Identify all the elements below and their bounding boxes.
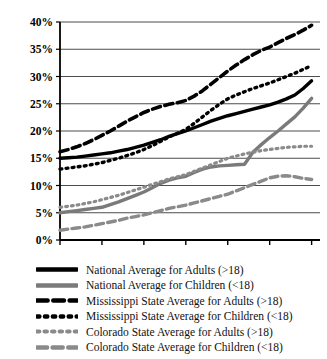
y-axis-tick-label: 40% (30, 16, 53, 28)
legend-item-colorado-adults[interactable]: Colorado State Average for Adults (>18) (0, 324, 327, 340)
y-axis-tick-label: 10% (30, 180, 53, 192)
legend-swatch-national-adults (36, 262, 78, 277)
legend-swatch-national-children (36, 278, 78, 293)
series-line-national-adults (60, 81, 312, 158)
legend-item-mississippi-adults[interactable]: Mississippi State Average for Adults (>1… (0, 293, 327, 309)
legend-swatch-mississippi-adults (36, 293, 78, 308)
x-axis-tick-label: 2005 (258, 248, 282, 250)
legend-label-national-children: National Average for Children (<18) (86, 279, 254, 291)
plot-svg: 0%5%10%15%20%25%30%35%40%198019851990199… (0, 0, 327, 250)
x-axis-tick-label: 1985 (90, 248, 114, 250)
legend-label-colorado-children: Colorado State Average for Children (<18… (86, 341, 283, 353)
chart-legend: National Average for Adults (>18)Nationa… (0, 262, 327, 359)
legend-item-national-children[interactable]: National Average for Children (<18) (0, 278, 327, 294)
legend-swatch-colorado-adults (36, 324, 78, 339)
x-axis-tick-label: 1995 (174, 248, 198, 250)
y-axis-tick-label: 35% (30, 43, 53, 55)
x-axis-tick-label: 1980 (48, 248, 72, 250)
y-axis-tick-label: 15% (30, 152, 53, 164)
y-axis-tick-label: 5% (36, 207, 53, 219)
legend-swatch-colorado-children (36, 340, 78, 355)
y-axis-tick-label: 20% (30, 125, 53, 137)
legend-label-colorado-adults: Colorado State Average for Adults (>18) (86, 326, 273, 338)
y-axis-tick-label: 0% (36, 234, 53, 246)
legend-item-colorado-children[interactable]: Colorado State Average for Children (<18… (0, 340, 327, 356)
legend-item-national-adults[interactable]: National Average for Adults (>18) (0, 262, 327, 278)
legend-label-mississippi-children: Mississippi State Average for Children (… (86, 310, 293, 322)
legend-label-national-adults: National Average for Adults (>18) (86, 264, 244, 276)
x-axis-tick-label: 2000 (216, 248, 240, 250)
plot-area: 0%5%10%15%20%25%30%35%40%198019851990199… (0, 0, 327, 250)
y-axis-tick-label: 25% (30, 98, 53, 110)
legend-label-mississippi-adults: Mississippi State Average for Adults (>1… (86, 295, 282, 307)
chart-figure: 0%5%10%15%20%25%30%35%40%198019851990199… (0, 0, 327, 359)
y-axis-tick-label: 30% (30, 71, 53, 83)
series-line-colorado-children (60, 176, 312, 231)
x-axis-tick-label: 2010 (300, 248, 324, 250)
legend-item-mississippi-children[interactable]: Mississippi State Average for Children (… (0, 309, 327, 325)
legend-swatch-mississippi-children (36, 309, 78, 324)
x-axis-tick-label: 1990 (132, 248, 156, 250)
